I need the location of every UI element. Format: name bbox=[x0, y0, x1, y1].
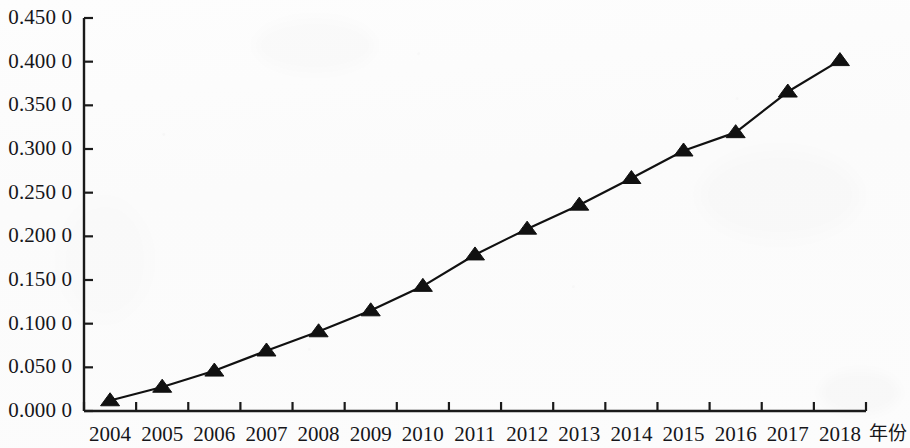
data-point-marker bbox=[466, 247, 485, 260]
chart-figure: 0.000 00.050 00.100 00.150 00.200 00.250… bbox=[0, 0, 910, 448]
x-axis-tick-label: 2017 bbox=[762, 424, 814, 445]
data-point-marker bbox=[309, 324, 328, 337]
y-axis-tick-label: 0.050 0 bbox=[0, 356, 72, 377]
data-point-marker bbox=[830, 53, 849, 66]
x-axis-tick-label: 2013 bbox=[553, 424, 605, 445]
y-axis-tick-label: 0.350 0 bbox=[0, 94, 72, 115]
x-axis-tick-label: 2006 bbox=[188, 424, 240, 445]
axis-lines bbox=[84, 18, 866, 411]
x-axis-tick-label: 2010 bbox=[397, 424, 449, 445]
x-axis-tick-label: 2014 bbox=[605, 424, 657, 445]
data-point-marker bbox=[570, 197, 589, 210]
x-axis-tick-label: 2005 bbox=[136, 424, 188, 445]
y-axis-tick-label: 0.450 0 bbox=[0, 7, 72, 28]
data-point-marker bbox=[205, 363, 224, 376]
x-axis-tick-label: 2016 bbox=[710, 424, 762, 445]
data-point-marker bbox=[361, 303, 380, 316]
x-axis-tick-label: 2008 bbox=[293, 424, 345, 445]
data-point-marker bbox=[622, 171, 641, 184]
y-axis-tick-label: 0.300 0 bbox=[0, 138, 72, 159]
x-axis-tick-label: 2015 bbox=[657, 424, 709, 445]
y-axis-tick-label: 0.150 0 bbox=[0, 269, 72, 290]
y-axis-tick-label: 0.100 0 bbox=[0, 313, 72, 334]
x-axis-tick-label: 2004 bbox=[84, 424, 136, 445]
y-axis-tick-label: 0.200 0 bbox=[0, 225, 72, 246]
data-point-marker bbox=[778, 84, 797, 97]
y-axis-tick-label: 0.000 0 bbox=[0, 400, 72, 421]
x-axis-ticks bbox=[84, 402, 866, 411]
x-axis-tick-label: 2009 bbox=[345, 424, 397, 445]
y-axis-tick-label: 0.250 0 bbox=[0, 182, 72, 203]
data-point-marker bbox=[518, 221, 537, 234]
data-line bbox=[110, 60, 840, 400]
x-axis-title: 年份 bbox=[869, 424, 907, 443]
data-markers bbox=[101, 53, 850, 406]
x-axis-tick-label: 2012 bbox=[501, 424, 553, 445]
x-axis-tick-label: 2018 bbox=[814, 424, 866, 445]
y-axis-ticks bbox=[84, 18, 93, 411]
x-axis-tick-label: 2011 bbox=[449, 424, 501, 445]
data-point-marker bbox=[413, 278, 432, 291]
data-point-marker bbox=[257, 343, 276, 356]
plot-area bbox=[0, 0, 910, 448]
y-axis-tick-label: 0.400 0 bbox=[0, 51, 72, 72]
x-axis-tick-label: 2007 bbox=[240, 424, 292, 445]
